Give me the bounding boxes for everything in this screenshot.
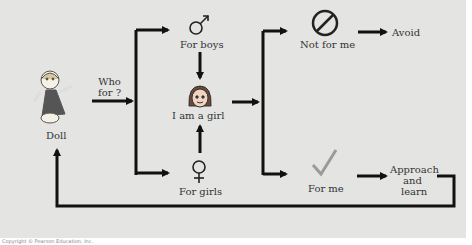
and-label: and [403,175,422,186]
for-me-label: For me [308,183,344,194]
approach-label: Approach [390,164,439,175]
checkmark-icon [0,0,466,238]
diagram-panel: Doll Who for ? For boys I am a girl For … [0,0,466,238]
caption: Copyright © Pearson Education, Inc. [2,238,93,244]
learn-label: learn [401,186,427,197]
